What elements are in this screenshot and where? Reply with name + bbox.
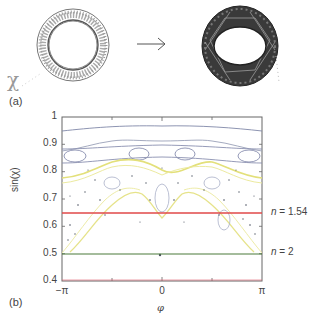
plot-area [62, 117, 262, 281]
y-axis-title: sin(χ) [9, 167, 20, 192]
panel-b-label: (b) [9, 296, 22, 308]
annotation-n-1-54: n = 1.54 [271, 206, 307, 217]
panel-a-label: (a) [9, 95, 22, 107]
y-tick-0-4: 0.4 [27, 274, 57, 285]
x-tick-pi: π [252, 285, 272, 296]
y-tick-0-8: 0.8 [27, 164, 57, 175]
annotation-n-value: = 1.54 [277, 206, 308, 217]
annotation-n-2: n = 2 [271, 246, 294, 257]
left-dotted-ray [22, 74, 40, 86]
annotation-n-value: = 2 [277, 246, 294, 257]
x-axis-title: φ [157, 302, 164, 313]
y-tick-0-6: 0.6 [27, 219, 57, 230]
chi-symbol: χ [7, 68, 19, 92]
arrow-icon [137, 38, 165, 50]
right-deformed-ray-pattern [202, 6, 278, 86]
right-dotted-ray [276, 56, 279, 82]
y-tick-0-7: 0.7 [27, 192, 57, 203]
y-tick-0-9: 0.9 [27, 137, 57, 148]
x-tick-minus-pi: −π [52, 285, 72, 296]
y-tick-1: 1 [27, 110, 57, 121]
x-tick-0: 0 [152, 285, 172, 296]
left-annulus-ray-pattern [37, 9, 109, 81]
y-tick-0-5: 0.5 [27, 247, 57, 258]
